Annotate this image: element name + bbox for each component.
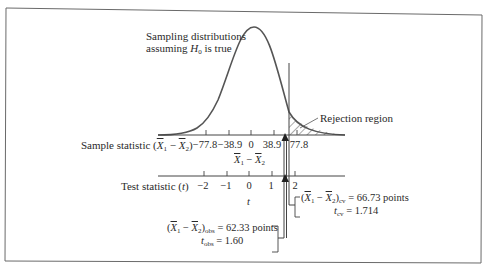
test-statistic-label: Test statistic (t) xyxy=(121,180,189,192)
test-axis-ticks xyxy=(204,171,295,176)
curve-label-line1: Sampling distributions xyxy=(146,30,246,42)
sample-tick-zero: 0 xyxy=(248,139,253,150)
observed-value-annotation: (X1 − X2)obs = 62.33 points tobs = 1.60 xyxy=(167,222,278,247)
sample-statistic-label: Sample statistic (X1 − X2) xyxy=(81,139,193,151)
observed-t: tobs = 1.60 xyxy=(167,235,278,247)
sample-tick-neg77: −77.8 xyxy=(193,139,217,150)
observed-arrow-lower xyxy=(282,174,290,182)
curve-label-line2: assuming H0 is true xyxy=(146,42,246,54)
observed-diff: (X1 − X2)obs = 62.33 points xyxy=(167,222,278,234)
test-tick-1: 1 xyxy=(268,180,273,191)
critical-value-annotation: (X1 − X2)cv = 66.73 points tcv = 1.714 xyxy=(301,192,409,217)
test-tick-neg1: −1 xyxy=(220,180,231,191)
test-axis-name: t xyxy=(247,196,250,208)
test-tick-zero: 0 xyxy=(246,180,251,191)
sample-tick-39: 38.9 xyxy=(263,139,281,150)
sample-tick-77: 77.8 xyxy=(290,139,308,150)
test-tick-neg2: −2 xyxy=(197,180,208,191)
hypothesis-test-diagram: Sampling distributions assuming H0 is tr… xyxy=(0,0,485,268)
rejection-pointer xyxy=(300,118,318,128)
critical-diff: (X1 − X2)cv = 66.73 points xyxy=(301,192,409,204)
rejection-region-label: Rejection region xyxy=(320,112,393,124)
sample-axis-name: X1 − X2 xyxy=(234,154,265,166)
critical-bracket xyxy=(295,197,300,217)
test-tick-2: 2 xyxy=(292,180,297,191)
sample-axis-ticks xyxy=(206,130,297,135)
curve-label: Sampling distributions assuming H0 is tr… xyxy=(146,30,246,54)
observed-arrow-upper xyxy=(282,133,290,141)
critical-t: tcv = 1.714 xyxy=(301,205,409,217)
sample-tick-neg39: −38.9 xyxy=(218,139,242,150)
